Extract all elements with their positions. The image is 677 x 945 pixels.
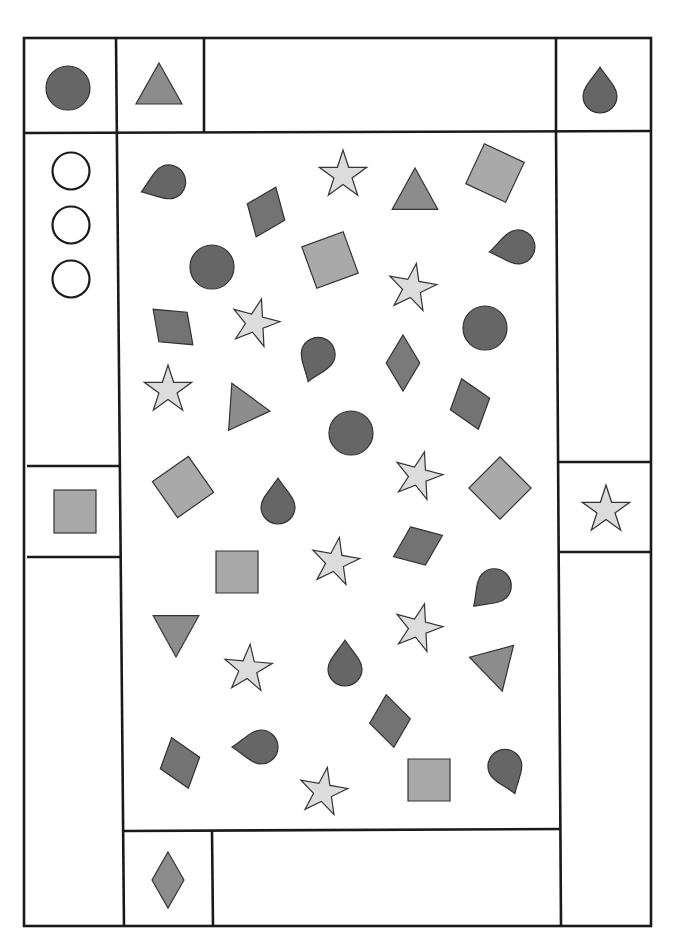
square-shape — [152, 456, 213, 517]
star-shape — [390, 598, 448, 654]
diamond-shape — [386, 335, 420, 391]
star-shape — [296, 763, 351, 816]
star-shape — [319, 150, 367, 195]
square-shape — [466, 144, 524, 202]
circle-shape — [329, 411, 373, 455]
reference-teardrop — [583, 67, 617, 113]
teardrop-shape — [136, 160, 191, 208]
answer-circles — [53, 153, 90, 298]
teardrop-shape — [462, 562, 519, 619]
star-shape — [227, 293, 285, 349]
rhombus-shape — [157, 738, 202, 789]
reference-star — [582, 485, 630, 530]
teardrop-shape — [328, 640, 362, 686]
triangle-shape — [153, 616, 199, 657]
star-shape — [385, 259, 440, 312]
star-shape — [390, 446, 448, 502]
teardrop-shape — [261, 478, 295, 524]
answer-circle-1[interactable] — [53, 153, 90, 190]
bottom-row-top-line — [124, 829, 561, 831]
reference-triangle — [136, 63, 182, 104]
rhombus-shape — [447, 379, 492, 430]
star-shape — [223, 642, 274, 691]
circle-shape — [463, 306, 507, 350]
answer-circle-2[interactable] — [53, 207, 90, 244]
teardrop-shape — [292, 333, 340, 388]
bottom-divider — [212, 831, 213, 926]
triangle-shape — [211, 374, 270, 431]
square-shape — [408, 759, 450, 801]
square-shape — [216, 551, 258, 593]
scattered-shapes — [136, 144, 538, 816]
circle-shape — [190, 245, 234, 289]
triangle-shape — [470, 645, 525, 697]
right-column-line — [556, 131, 561, 926]
shape-worksheet — [0, 0, 677, 945]
teardrop-shape — [232, 730, 278, 764]
left-column-line — [116, 38, 124, 926]
triangle-shape — [392, 168, 438, 209]
square-shape — [469, 457, 531, 519]
square-shape — [302, 232, 358, 288]
reference-shapes — [46, 63, 630, 908]
reference-circle — [46, 66, 90, 110]
rhombus-shape — [365, 695, 414, 748]
star-shape — [144, 365, 192, 410]
star-shape — [308, 533, 363, 586]
teardrop-shape — [483, 745, 531, 800]
teardrop-shape — [486, 227, 537, 268]
reference-diamond — [152, 852, 184, 908]
reference-square — [54, 490, 96, 533]
rhombus-shape — [153, 304, 193, 351]
rhombus-shape — [394, 525, 443, 568]
answer-circle-3[interactable] — [53, 261, 90, 298]
rhombus-shape — [240, 187, 293, 236]
